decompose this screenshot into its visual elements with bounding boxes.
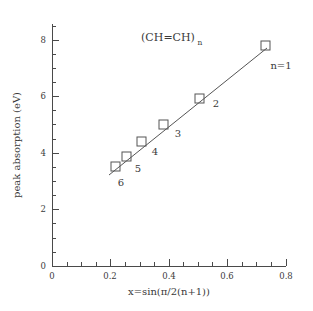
chart-figure: 0 2 4 6 8 0 0.2 0.4 0.6 0.8 x=sin(π/2(n+… <box>0 0 313 311</box>
x-tick-label-04: 0.4 <box>162 271 176 281</box>
x-tick-label-02: 0.2 <box>103 271 117 281</box>
data-point-n3-marker <box>159 120 168 129</box>
y-tick-label-8: 8 <box>41 35 46 45</box>
x-tick-label-0: 0 <box>49 271 54 281</box>
data-point-n5-marker <box>122 152 131 161</box>
data-point-label-n1: n=1 <box>270 60 291 71</box>
y-axis-ticks <box>52 26 59 266</box>
data-point-labels: n=1 2 3 4 5 6 <box>118 60 292 188</box>
data-point-label-n3: 3 <box>175 128 181 139</box>
data-point-n4-marker <box>137 137 146 146</box>
x-axis-title: x=sin(π/2(n+1)) <box>128 286 210 297</box>
x-tick-labels: 0 0.2 0.4 0.6 0.8 <box>49 271 292 281</box>
data-point-label-n6: 6 <box>118 177 124 188</box>
y-axis-title: peak absorption (eV) <box>11 92 22 198</box>
y-tick-label-6: 6 <box>41 91 46 101</box>
x-tick-label-06: 0.6 <box>220 271 234 281</box>
polymer-formula-subscript: n <box>198 38 203 47</box>
y-tick-label-4: 4 <box>41 148 46 158</box>
polymer-formula-annotation: (CH=CH) n <box>141 31 202 47</box>
peak-absorption-scatter-plot: 0 2 4 6 8 0 0.2 0.4 0.6 0.8 x=sin(π/2(n+… <box>0 0 313 311</box>
data-point-label-n2: 2 <box>213 98 219 109</box>
x-tick-label-08: 0.8 <box>279 271 293 281</box>
data-point-label-n4: 4 <box>152 146 158 157</box>
data-markers <box>111 41 270 171</box>
y-tick-label-2: 2 <box>41 204 46 214</box>
data-point-label-n5: 5 <box>135 163 141 174</box>
x-axis-ticks <box>52 259 286 266</box>
polymer-formula-main: (CH=CH) <box>141 31 195 44</box>
y-tick-label-0: 0 <box>41 261 46 271</box>
linear-fit-line <box>109 48 267 175</box>
y-tick-labels: 0 2 4 6 8 <box>41 35 46 271</box>
